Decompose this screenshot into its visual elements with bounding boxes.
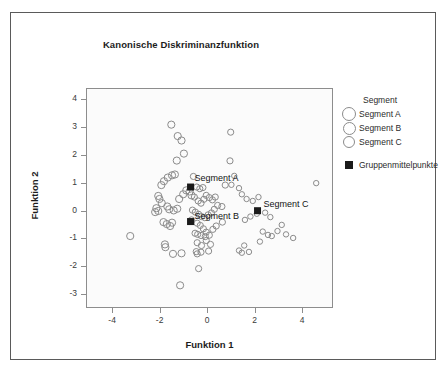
data-point	[313, 180, 318, 185]
data-point	[173, 157, 180, 164]
legend-item-segment-b[interactable]: Segment B	[341, 121, 446, 135]
legend-item-gruppenmittelpunkte[interactable]: Gruppenmittelpunkte	[341, 158, 446, 172]
x-tick-mark	[160, 308, 161, 313]
data-point	[127, 232, 134, 239]
y-tick-mark	[81, 155, 86, 156]
y-tick-label: -2	[59, 260, 77, 270]
x-axis-title: Funktion 1	[86, 339, 333, 350]
data-point	[206, 248, 212, 254]
x-tick-mark	[207, 308, 208, 313]
data-point	[242, 243, 247, 248]
data-point	[215, 202, 221, 208]
legend-item-label: Segment A	[357, 109, 401, 119]
data-point	[168, 121, 175, 128]
data-point	[196, 266, 202, 272]
legend: Segment Segment ASegment BSegment C Grup…	[341, 95, 446, 172]
data-point	[176, 195, 183, 202]
x-tick-label: 4	[292, 315, 312, 325]
data-point	[227, 158, 233, 164]
data-point	[250, 198, 255, 203]
data-point	[279, 222, 284, 227]
y-tick-mark	[81, 211, 86, 212]
data-point	[219, 203, 225, 209]
data-point	[260, 229, 265, 234]
data-point	[246, 249, 251, 254]
y-tick-mark	[81, 238, 86, 239]
centroid-marker	[187, 218, 194, 225]
data-point	[242, 217, 247, 222]
data-point	[268, 214, 273, 219]
legend-item-label: Segment B	[357, 123, 401, 133]
open-circle-icon	[341, 107, 357, 121]
legend-item-segment-c[interactable]: Segment C	[341, 135, 446, 149]
data-point	[177, 282, 184, 289]
centroid-label-segment-c: Segment C	[264, 199, 309, 209]
data-point	[194, 251, 200, 257]
figure-outer-frame: Kanonische Diskriminanzfunktion Segment …	[10, 12, 436, 360]
y-tick-label: 4	[59, 93, 77, 103]
filled-square-icon	[341, 161, 357, 169]
open-circle-icon	[341, 136, 357, 148]
open-circle-icon	[341, 122, 357, 135]
y-tick-label: 1	[59, 177, 77, 187]
x-tick-label: 0	[197, 315, 217, 325]
legend-item-label: Gruppenmittelpunkte	[357, 160, 438, 170]
legend-title: Segment	[347, 95, 413, 105]
data-point	[178, 137, 185, 144]
y-tick-mark	[81, 127, 86, 128]
data-point	[262, 210, 267, 215]
y-tick-label: -3	[59, 288, 77, 298]
data-point	[248, 214, 253, 219]
data-point	[236, 185, 241, 190]
data-point	[178, 250, 185, 257]
plot-area: Segment A Segment B Segment C	[86, 88, 333, 308]
data-point	[207, 241, 213, 247]
y-axis-title: Funktion 2	[29, 151, 40, 241]
x-tick-mark	[112, 308, 113, 313]
centroid-label-segment-a: Segment A	[195, 173, 239, 183]
legend-items: Segment ASegment BSegment C	[341, 107, 446, 149]
legend-item-segment-a[interactable]: Segment A	[341, 107, 446, 121]
x-tick-mark	[302, 308, 303, 313]
data-point	[257, 239, 262, 244]
y-tick-label: -1	[59, 232, 77, 242]
data-point	[256, 194, 261, 199]
chart-title: Kanonische Diskriminanzfunktion	[11, 39, 351, 50]
x-tick-label: -4	[102, 315, 122, 325]
series-segment-a	[127, 121, 195, 289]
y-tick-label: 0	[59, 205, 77, 215]
centroid-marker	[254, 207, 261, 214]
y-tick-mark	[81, 266, 86, 267]
data-point	[244, 196, 249, 201]
x-tick-mark	[255, 308, 256, 313]
data-point	[180, 150, 187, 157]
x-tick-label: 2	[245, 315, 265, 325]
data-point	[174, 132, 181, 139]
y-tick-mark	[81, 99, 86, 100]
series-segment-c	[229, 173, 319, 255]
y-tick-mark	[81, 183, 86, 184]
data-point	[275, 228, 280, 233]
data-point	[290, 235, 295, 240]
data-point	[239, 192, 244, 197]
data-point	[283, 232, 288, 237]
y-tick-label: 2	[59, 149, 77, 159]
data-point	[169, 250, 176, 257]
y-tick-mark	[81, 294, 86, 295]
y-tick-label: 3	[59, 121, 77, 131]
data-point	[228, 129, 234, 135]
centroid-label-segment-b: Segment B	[195, 211, 240, 221]
series-segment-b	[188, 129, 233, 272]
x-tick-label: -2	[150, 315, 170, 325]
legend-item-label: Segment C	[357, 137, 402, 147]
centroid-marker	[187, 184, 194, 191]
